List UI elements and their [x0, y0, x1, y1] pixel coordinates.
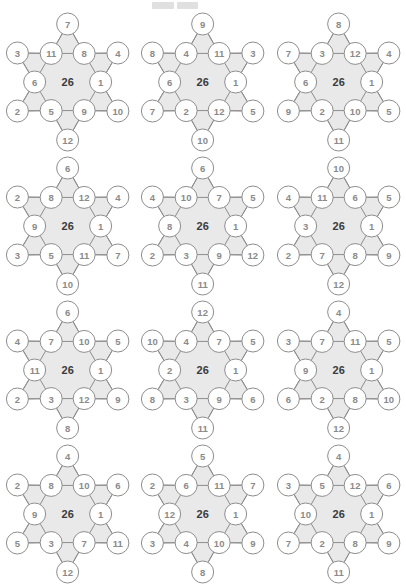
hexagram-node-inner-upper-right[interactable]: 7: [208, 330, 230, 352]
node-circle[interactable]: [277, 100, 299, 122]
hexagram-node-inner-lower-right[interactable]: 9: [208, 388, 230, 410]
node-circle[interactable]: [175, 532, 197, 554]
node-circle[interactable]: [208, 330, 230, 352]
hexagram-node-bottom-point[interactable]: 12: [57, 129, 79, 151]
hexagram-node-left-middle[interactable]: 9: [294, 359, 316, 381]
node-circle[interactable]: [24, 215, 46, 237]
node-circle[interactable]: [175, 474, 197, 496]
node-circle[interactable]: [159, 215, 181, 237]
hexagram-node-inner-upper-right[interactable]: 8: [73, 42, 95, 64]
hexagram-node-upper-right-point[interactable]: 7: [242, 474, 264, 496]
node-circle[interactable]: [311, 100, 333, 122]
hexagram-node-left-middle[interactable]: 3: [294, 215, 316, 237]
node-circle[interactable]: [360, 215, 382, 237]
hexagram-node-inner-lower-right[interactable]: 8: [344, 388, 366, 410]
node-circle[interactable]: [242, 388, 264, 410]
node-circle[interactable]: [327, 301, 349, 323]
hexagram-node-lower-right-point[interactable]: 10: [377, 388, 399, 410]
node-circle[interactable]: [360, 71, 382, 93]
hexagram-node-upper-left-point[interactable]: 2: [6, 186, 28, 208]
hexagram-node-upper-left-point[interactable]: 4: [6, 330, 28, 352]
hexagram-node-inner-lower-right[interactable]: 10: [344, 100, 366, 122]
node-circle[interactable]: [225, 503, 247, 525]
node-circle[interactable]: [294, 215, 316, 237]
hexagram-node-left-middle[interactable]: 10: [294, 503, 316, 525]
hexagram-node-inner-lower-right[interactable]: 12: [208, 100, 230, 122]
node-circle[interactable]: [57, 13, 79, 35]
node-circle[interactable]: [192, 561, 214, 583]
node-circle[interactable]: [142, 244, 164, 266]
node-circle[interactable]: [142, 186, 164, 208]
hexagram-node-top-point[interactable]: 7: [57, 13, 79, 35]
hexagram-node-inner-lower-left[interactable]: 2: [311, 388, 333, 410]
node-circle[interactable]: [142, 42, 164, 64]
hexagram-node-inner-lower-right[interactable]: 12: [73, 388, 95, 410]
hexagram-node-upper-left-point[interactable]: 2: [142, 474, 164, 496]
node-circle[interactable]: [225, 359, 247, 381]
hexagram-node-upper-left-point[interactable]: 10: [142, 330, 164, 352]
hexagram-node-lower-right-point[interactable]: 5: [242, 100, 264, 122]
hexagram-node-inner-upper-right[interactable]: 7: [208, 186, 230, 208]
node-circle[interactable]: [142, 330, 164, 352]
node-circle[interactable]: [192, 273, 214, 295]
node-circle[interactable]: [107, 388, 129, 410]
hexagram-node-inner-upper-right[interactable]: 11: [208, 474, 230, 496]
node-circle[interactable]: [73, 532, 95, 554]
hexagram-node-right-middle[interactable]: 1: [90, 215, 112, 237]
hexagram-node-top-point[interactable]: 4: [327, 301, 349, 323]
node-circle[interactable]: [344, 532, 366, 554]
node-circle[interactable]: [107, 330, 129, 352]
node-circle[interactable]: [277, 186, 299, 208]
node-circle[interactable]: [192, 445, 214, 467]
node-circle[interactable]: [311, 186, 333, 208]
node-circle[interactable]: [327, 417, 349, 439]
node-circle[interactable]: [24, 359, 46, 381]
node-circle[interactable]: [90, 71, 112, 93]
hexagram-node-right-middle[interactable]: 1: [90, 71, 112, 93]
hexagram-node-top-point[interactable]: 10: [327, 157, 349, 179]
node-circle[interactable]: [107, 244, 129, 266]
hexagram-node-inner-lower-left[interactable]: 3: [40, 388, 62, 410]
node-circle[interactable]: [73, 42, 95, 64]
hexagram-node-lower-left-point[interactable]: 2: [277, 244, 299, 266]
hexagram-node-bottom-point[interactable]: 8: [57, 417, 79, 439]
node-circle[interactable]: [377, 330, 399, 352]
node-circle[interactable]: [24, 503, 46, 525]
hexagram-node-lower-left-point[interactable]: 2: [142, 244, 164, 266]
node-circle[interactable]: [57, 157, 79, 179]
hexagram-node-left-middle[interactable]: 9: [24, 215, 46, 237]
hexagram-node-inner-upper-right[interactable]: 12: [344, 474, 366, 496]
node-circle[interactable]: [327, 129, 349, 151]
node-circle[interactable]: [311, 244, 333, 266]
hexagram-node-upper-right-point[interactable]: 5: [242, 330, 264, 352]
hexagram-node-right-middle[interactable]: 1: [360, 359, 382, 381]
node-circle[interactable]: [208, 244, 230, 266]
hexagram-node-left-middle[interactable]: 6: [159, 71, 181, 93]
node-circle[interactable]: [208, 388, 230, 410]
node-circle[interactable]: [142, 532, 164, 554]
hexagram-node-top-point[interactable]: 8: [327, 13, 349, 35]
hexagram-node-lower-left-point[interactable]: 7: [277, 532, 299, 554]
node-circle[interactable]: [90, 503, 112, 525]
hexagram-node-top-point[interactable]: 6: [57, 301, 79, 323]
hexagram-node-right-middle[interactable]: 1: [225, 503, 247, 525]
hexagram-node-inner-lower-left[interactable]: 2: [311, 100, 333, 122]
node-circle[interactable]: [377, 42, 399, 64]
node-circle[interactable]: [225, 71, 247, 93]
node-circle[interactable]: [107, 532, 129, 554]
hexagram-node-inner-upper-left[interactable]: 10: [175, 186, 197, 208]
hexagram-node-inner-upper-left[interactable]: 8: [40, 474, 62, 496]
node-circle[interactable]: [142, 100, 164, 122]
hexagram-node-left-middle[interactable]: 8: [159, 215, 181, 237]
hexagram-node-inner-upper-left[interactable]: 4: [175, 42, 197, 64]
hexagram-node-inner-upper-left[interactable]: 7: [311, 330, 333, 352]
node-circle[interactable]: [377, 244, 399, 266]
hexagram-node-top-point[interactable]: 4: [57, 445, 79, 467]
node-circle[interactable]: [90, 359, 112, 381]
node-circle[interactable]: [327, 445, 349, 467]
hexagram-node-upper-right-point[interactable]: 6: [107, 474, 129, 496]
hexagram-node-upper-left-point[interactable]: 8: [142, 42, 164, 64]
node-circle[interactable]: [6, 42, 28, 64]
hexagram-node-upper-left-point[interactable]: 3: [277, 474, 299, 496]
hexagram-node-inner-upper-right[interactable]: 6: [344, 186, 366, 208]
